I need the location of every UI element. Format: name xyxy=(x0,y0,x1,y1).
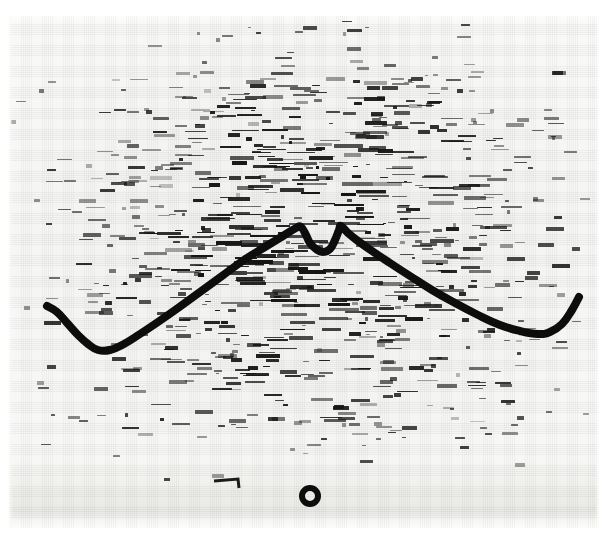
hand-drawn-hook-mark xyxy=(214,479,239,488)
hand-drawn-contour-line xyxy=(47,226,579,351)
hand-drawn-circle-mark xyxy=(302,488,318,504)
hand-drawn-ink-overlay xyxy=(0,0,605,539)
scanned-film-figure xyxy=(0,0,605,539)
